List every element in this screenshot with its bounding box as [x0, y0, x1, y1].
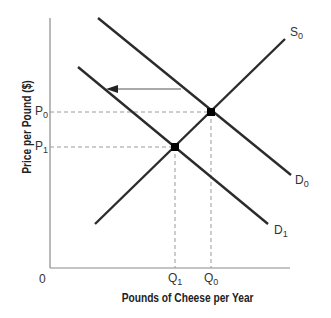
supply-curve-s0: [95, 39, 285, 224]
label-q1-base: Q: [168, 271, 177, 285]
label-q0-sub: 0: [213, 277, 218, 287]
label-s0-sub: 0: [298, 31, 303, 41]
label-p0-sub: 0: [43, 110, 48, 120]
label-p0-base: P: [35, 104, 43, 118]
y-axis-title: Price per Pound ($): [20, 76, 34, 178]
label-q1: Q1: [168, 272, 182, 287]
label-q0-base: Q: [204, 271, 213, 285]
label-d0-sub: 0: [304, 179, 309, 189]
label-d0: D0: [295, 174, 309, 189]
label-d1-base: D: [274, 223, 283, 237]
origin-label: 0: [39, 273, 46, 285]
label-s0-base: S: [290, 25, 298, 39]
label-d1-sub: 1: [283, 229, 288, 239]
x-axis-title: Pounds of Cheese per Year: [122, 291, 254, 305]
equilibrium-point-e1: [171, 143, 179, 151]
label-d0-base: D: [295, 173, 304, 187]
label-q1-sub: 1: [177, 277, 182, 287]
label-p1-sub: 1: [43, 145, 48, 155]
label-p0: P0: [35, 105, 48, 120]
supply-demand-diagram: [0, 0, 331, 318]
demand-curve-d0: [98, 18, 291, 175]
label-p1: P1: [35, 140, 48, 155]
label-p1-base: P: [35, 139, 43, 153]
equilibrium-point-e0: [207, 108, 215, 116]
label-d1: D1: [274, 224, 288, 239]
label-q0: Q0: [204, 272, 218, 287]
label-s0: S0: [290, 26, 303, 41]
